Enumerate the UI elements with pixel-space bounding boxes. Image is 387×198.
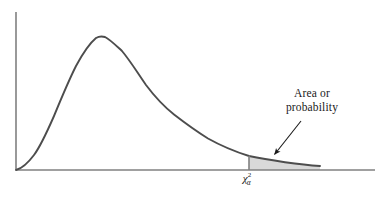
chi-subscript-alpha: α bbox=[247, 178, 251, 187]
area-label-line-1: Area or bbox=[262, 86, 362, 100]
callout-arrow-icon bbox=[275, 121, 302, 155]
area-label-line-2: probability bbox=[262, 100, 362, 114]
chi-square-distribution-figure: Area or probability χ2α bbox=[0, 0, 387, 198]
area-probability-label: Area or probability bbox=[262, 86, 362, 114]
critical-value-label: χ2α bbox=[232, 172, 266, 184]
